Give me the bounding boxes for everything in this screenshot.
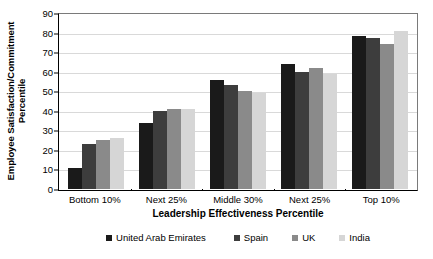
bar-group	[131, 15, 202, 189]
legend-swatch-icon	[292, 235, 298, 241]
legend-item[interactable]: United Arab Emirates	[106, 232, 206, 243]
bar-groups	[60, 15, 416, 189]
bar	[238, 91, 252, 189]
x-tick-label: Next 25%	[131, 194, 203, 206]
y-tick-label: 0	[48, 185, 53, 195]
bar	[252, 93, 266, 189]
legend-swatch-icon	[106, 235, 112, 241]
bar-group	[60, 15, 131, 189]
x-tick-mark	[345, 189, 346, 191]
bar-group	[274, 15, 345, 189]
bar	[323, 74, 337, 189]
x-tick-mark	[202, 189, 203, 191]
y-tick-label: 60	[42, 68, 53, 78]
bar	[210, 80, 224, 190]
legend-label: India	[349, 232, 370, 243]
x-tick-mark	[274, 189, 275, 191]
bar	[167, 109, 181, 189]
x-tick-label: Bottom 10%	[59, 194, 131, 206]
bar	[181, 109, 195, 189]
y-tick-label: 70	[42, 48, 53, 58]
bar	[380, 44, 394, 189]
bar-group	[202, 15, 273, 189]
bar-group	[345, 15, 416, 189]
x-tick-label: Top 10%	[345, 194, 417, 206]
bar	[394, 31, 408, 189]
bar	[295, 72, 309, 189]
y-tick-label: 30	[42, 126, 53, 136]
y-tick-label: 80	[42, 29, 53, 39]
bar	[352, 36, 366, 189]
bar	[281, 64, 295, 189]
y-tick-label: 20	[42, 146, 53, 156]
y-tick-label: 10	[42, 165, 53, 175]
legend-item[interactable]: India	[339, 232, 370, 243]
legend-label: United Arab Emirates	[116, 232, 206, 243]
plot-area	[58, 13, 418, 191]
bar	[309, 68, 323, 189]
bar-chart: Employee Satisfaction/Commitment Percent…	[0, 0, 433, 259]
bar	[139, 123, 153, 189]
legend-swatch-icon	[234, 235, 240, 241]
bar	[366, 38, 380, 189]
legend-swatch-icon	[339, 235, 345, 241]
bar	[96, 140, 110, 189]
y-tick-label: 40	[42, 107, 53, 117]
legend-item[interactable]: Spain	[234, 232, 268, 243]
y-tick-label: 50	[42, 87, 53, 97]
bar	[224, 85, 238, 189]
x-axis-title: Leadership Effectiveness Percentile	[58, 208, 418, 220]
legend-label: UK	[302, 232, 315, 243]
x-axis-tick-labels: Bottom 10%Next 25%Middle 30%Next 25%Top …	[59, 194, 417, 206]
y-axis-tick-labels: 0102030405060708090	[28, 13, 58, 191]
y-tick-label: 90	[42, 9, 53, 19]
x-tick-label: Next 25%	[274, 194, 346, 206]
bar	[68, 168, 82, 190]
x-tick-mark	[131, 189, 132, 191]
y-axis-title: Employee Satisfaction/Commitment Percent…	[2, 6, 30, 196]
x-tick-label: Middle 30%	[202, 194, 274, 206]
plot-wrapper	[58, 13, 418, 191]
bar	[153, 111, 167, 189]
legend-label: Spain	[244, 232, 268, 243]
chart-legend: United Arab EmiratesSpainUKIndia	[58, 232, 418, 243]
legend-item[interactable]: UK	[292, 232, 315, 243]
bar	[82, 144, 96, 189]
bar	[110, 138, 124, 189]
